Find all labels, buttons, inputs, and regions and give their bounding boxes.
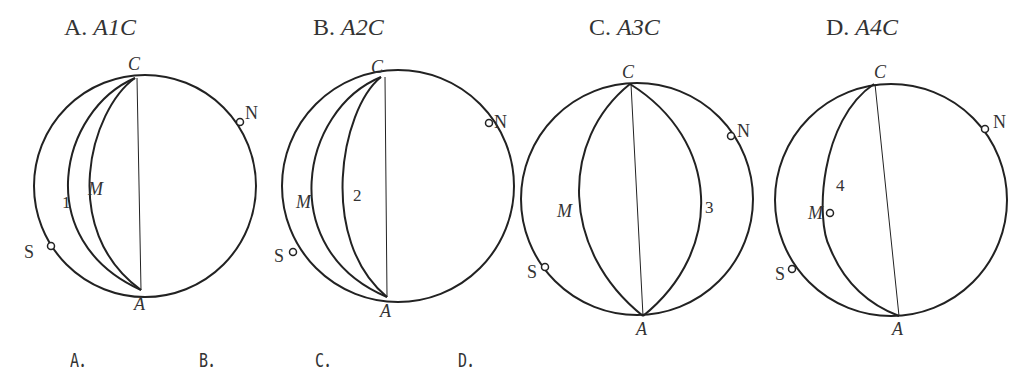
label-arc-1: 1: [62, 193, 71, 212]
point-n-a: [237, 119, 244, 126]
point-s-c: [542, 264, 549, 271]
point-n-b: [486, 120, 493, 127]
label-n-c: N: [737, 121, 750, 141]
point-s-b: [290, 249, 297, 256]
label-c-a: C: [128, 54, 141, 74]
label-a-a: A: [133, 294, 146, 314]
diagram-c: [521, 83, 753, 316]
label-n-a: N: [245, 103, 258, 123]
sphere-outline-d: [775, 84, 1007, 316]
caption-c: C．: [315, 344, 339, 373]
point-s-a: [48, 243, 55, 250]
label-a-b: A: [379, 301, 392, 321]
diagram-canvas: C A N S 1 M C A N S 2 M C A N S 3 M C A …: [0, 0, 1027, 391]
point-n-d: [982, 126, 989, 133]
diagram-d: [775, 84, 1007, 316]
label-s-d: S: [775, 264, 785, 284]
label-c-b: C: [371, 57, 384, 77]
point-m-d: [827, 210, 834, 217]
diagram-b: [282, 70, 514, 302]
label-n-d: N: [993, 112, 1006, 132]
arc-m-inner-a: [99, 78, 141, 290]
label-m-a: M: [87, 179, 104, 199]
arc-2-b: [343, 77, 387, 297]
point-n-c: [728, 133, 735, 140]
label-m-d: M: [807, 203, 824, 223]
label-c-d: C: [874, 62, 887, 82]
arc-m-c: [579, 84, 643, 316]
label-c-c: C: [622, 62, 635, 82]
caption-a: A．: [70, 344, 94, 373]
arc-3-c: [630, 84, 701, 316]
label-m-b: M: [295, 192, 312, 212]
label-arc-3: 3: [705, 198, 714, 217]
diagram-a: [34, 75, 256, 297]
label-s-c: S: [527, 262, 537, 282]
chord-ca-c: [631, 84, 643, 316]
sphere-outline-b: [282, 70, 514, 302]
arc-4-d: [823, 84, 899, 316]
label-m-c: M: [556, 201, 573, 221]
label-arc-4: 4: [836, 176, 845, 195]
caption-b: B．: [199, 344, 223, 373]
label-n-b: N: [494, 112, 507, 132]
label-s-b: S: [274, 246, 284, 266]
caption-d: D．: [458, 344, 482, 373]
label-a-d: A: [891, 319, 904, 339]
chord-ca-b: [385, 77, 387, 297]
chord-ca-d: [875, 84, 899, 316]
label-a-c: A: [635, 319, 648, 339]
arc-1-a: [68, 78, 141, 290]
label-arc-2: 2: [353, 186, 362, 205]
point-s-d: [789, 266, 796, 273]
chord-ca-a: [137, 78, 141, 290]
label-s-a: S: [24, 242, 34, 262]
arc-m-b: [311, 77, 387, 297]
